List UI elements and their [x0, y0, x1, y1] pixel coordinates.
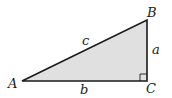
side-label-c: c	[82, 33, 90, 48]
triangle-shape	[22, 20, 147, 81]
side-label-b: b	[80, 82, 88, 97]
vertex-label-c: C	[146, 81, 156, 96]
side-label-a: a	[152, 42, 160, 57]
vertex-label-a: A	[7, 76, 17, 91]
right-triangle-diagram: A B C a b c	[0, 0, 172, 98]
vertex-label-b: B	[146, 5, 157, 20]
